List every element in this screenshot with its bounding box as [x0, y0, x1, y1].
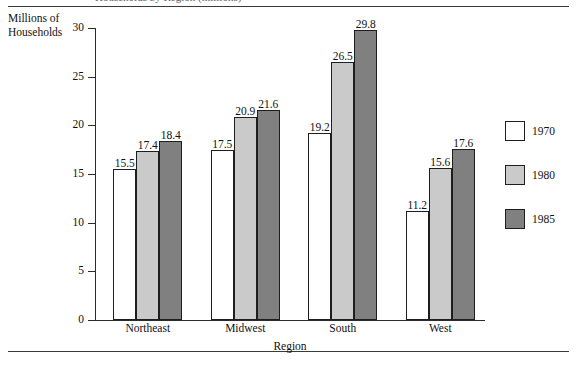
plot-area: 051015202530 15.517.418.4Northeast17.520…	[95, 28, 485, 320]
y-axis-tick: 5	[88, 271, 95, 272]
bar-value-label: 17.5	[212, 138, 232, 150]
legend-item[interactable]: 1985	[505, 208, 575, 230]
bar-value-label: 15.5	[115, 157, 135, 169]
bar: 15.6	[429, 168, 452, 320]
y-axis-tick-label: 0	[78, 313, 84, 325]
bar-value-label: 26.5	[333, 50, 353, 62]
y-axis-tick: 0	[88, 320, 95, 321]
bar-group: 15.517.418.4Northeast	[113, 28, 182, 320]
bar-value-label: 20.9	[235, 105, 255, 117]
y-axis-tick: 20	[88, 125, 95, 126]
bar-group: 17.520.921.6Midwest	[211, 28, 280, 320]
y-axis-tick: 25	[88, 77, 95, 78]
bar: 29.8	[354, 30, 377, 320]
y-axis-tick: 15	[88, 174, 95, 175]
x-axis-category-label: Midwest	[225, 322, 265, 334]
legend-item[interactable]: 1980	[505, 164, 575, 186]
y-axis-tick-label: 10	[73, 216, 85, 228]
x-axis-category-label: West	[429, 322, 452, 334]
legend-swatch-icon	[505, 209, 525, 229]
bar: 11.2	[406, 211, 429, 320]
legend-item-label: 1970	[532, 125, 555, 137]
top-horizontal-rule	[8, 6, 569, 7]
legend-swatch-icon	[505, 121, 525, 141]
bar: 17.6	[452, 149, 475, 320]
y-axis-tick-label: 5	[78, 264, 84, 276]
chart-legend: 197019801985	[505, 120, 575, 252]
legend-item[interactable]: 1970	[505, 120, 575, 142]
bar: 21.6	[257, 110, 280, 320]
bar: 17.4	[136, 151, 159, 320]
clipped-caption: Households by Region (millions)	[95, 0, 515, 5]
x-axis-category-label: South	[329, 322, 356, 334]
chart-figure: Households by Region (millions) Millions…	[0, 0, 577, 365]
bar-value-label: 21.6	[258, 98, 278, 110]
y-axis-tick: 30	[88, 28, 95, 29]
y-axis-tick: 10	[88, 223, 95, 224]
bar-value-label: 18.4	[161, 129, 181, 141]
x-axis-line	[95, 320, 485, 321]
x-axis-title: Region	[95, 340, 485, 352]
bar: 26.5	[331, 62, 354, 320]
bar: 20.9	[234, 117, 257, 320]
y-axis-tick-label: 30	[73, 21, 85, 33]
y-axis-tick-label: 20	[73, 118, 85, 130]
bar-value-label: 17.4	[138, 139, 158, 151]
y-axis-tick-label: 15	[73, 167, 85, 179]
bar-value-label: 15.6	[430, 156, 450, 168]
bar-value-label: 29.8	[356, 18, 376, 30]
legend-item-label: 1980	[532, 169, 555, 181]
bar: 18.4	[159, 141, 182, 320]
x-axis-category-label: Northeast	[125, 322, 170, 334]
bar-group: 11.215.617.6West	[406, 28, 475, 320]
y-axis-line	[95, 28, 96, 320]
bar: 15.5	[113, 169, 136, 320]
bar-value-label: 19.2	[310, 121, 330, 133]
y-axis-tick-label: 25	[73, 70, 85, 82]
bar-group: 19.226.529.8South	[308, 28, 377, 320]
bar: 17.5	[211, 150, 234, 320]
legend-item-label: 1985	[532, 213, 555, 225]
bar-value-label: 17.6	[453, 137, 473, 149]
bar: 19.2	[308, 133, 331, 320]
legend-swatch-icon	[505, 165, 525, 185]
bar-value-label: 11.2	[407, 199, 427, 211]
